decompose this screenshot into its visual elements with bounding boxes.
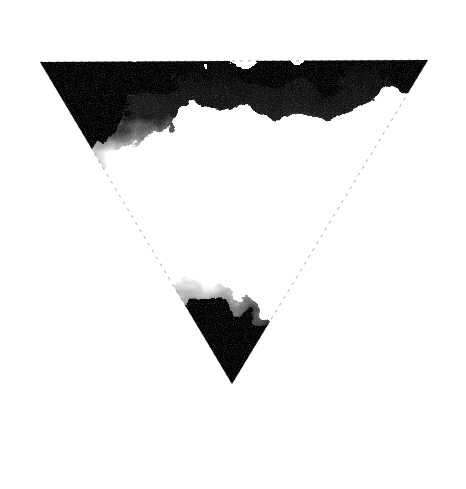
canvas	[0, 0, 466, 489]
inverted-triangle-artwork	[0, 0, 466, 489]
triangle-fill	[0, 0, 466, 489]
